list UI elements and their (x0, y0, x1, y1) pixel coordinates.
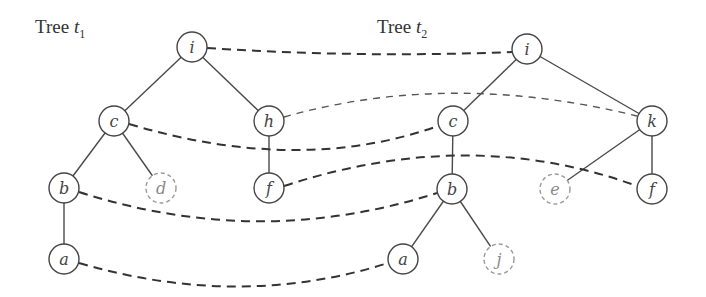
tree-edge-t2-i-t2-k (527, 49, 652, 121)
node-label: c (449, 112, 458, 131)
node-label: h (264, 112, 274, 131)
node-label: a (59, 250, 69, 269)
tree-node-t2-c: c (438, 106, 468, 136)
tree-edge-t1-i-t1-c (114, 47, 192, 121)
matching-lines (79, 48, 637, 287)
node-label: b (447, 180, 457, 199)
tree-node-t2-i: i (512, 34, 542, 64)
tree-node-t1-a: a (49, 244, 79, 274)
tree-node-t2-j: j (484, 244, 514, 274)
tree-edge-t2-k-t2-e (555, 121, 652, 189)
matching-line-t1-c-t2-c (129, 124, 438, 150)
tree-t2-title: Tree t2 (377, 16, 427, 42)
node-label: b (59, 179, 69, 198)
node-label: e (550, 180, 559, 199)
tree-t1-title: Tree t1 (35, 16, 85, 42)
tree-node-t1-d: d (146, 173, 176, 203)
tree-node-t1-h: h (254, 106, 284, 136)
tree-node-t1-b: b (49, 173, 79, 203)
tree-node-t2-k: k (637, 106, 667, 136)
tree-edges (64, 47, 652, 259)
node-label: a (398, 250, 408, 269)
tree-nodes: ichbdfaickbefaj (49, 32, 667, 274)
tree-t2-title-prefix: Tree (377, 16, 416, 37)
tree-node-t2-b: b (437, 174, 467, 204)
tree-node-t2-a: a (388, 244, 418, 274)
node-label: k (647, 112, 657, 131)
tree-node-t1-i: i (177, 32, 207, 62)
node-label: i (524, 40, 529, 59)
matching-line-t1-a-t2-a (79, 263, 388, 287)
tree-node-t1-f: f (254, 173, 284, 203)
tree-t1-title-prefix: Tree (35, 16, 74, 37)
tree-node-t2-f: f (637, 174, 667, 204)
node-label: i (189, 38, 194, 57)
tree-node-t1-c: c (99, 106, 129, 136)
diagram-canvas: ichbdfaickbefaj (0, 0, 706, 297)
tree-matching-diagram: Tree t1 Tree t2 ichbdfaickbefaj (0, 0, 706, 297)
tree-edge-t1-i-t1-h (192, 47, 269, 121)
tree-t1-title-sub: 1 (79, 27, 85, 41)
matching-line-t1-i-t2-i (207, 48, 512, 54)
node-label: c (110, 112, 119, 131)
tree-node-t2-e: e (540, 174, 570, 204)
node-label: d (156, 179, 166, 198)
tree-t2-title-sub: 2 (421, 27, 427, 41)
